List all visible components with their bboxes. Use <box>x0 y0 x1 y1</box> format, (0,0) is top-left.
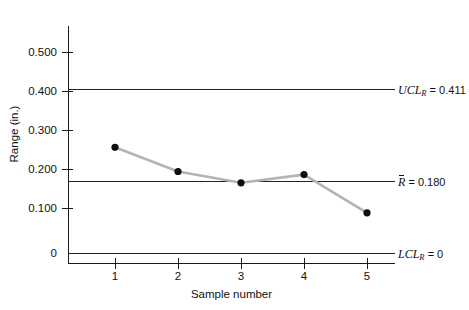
data-point-sample-3 <box>237 179 244 186</box>
data-point-sample-4 <box>300 171 307 178</box>
series-points <box>111 144 370 217</box>
range-control-chart: Range (in.) 0.500 0.400 0.300 0.200 0.10… <box>0 0 469 310</box>
data-series-layer <box>0 0 469 310</box>
data-point-sample-1 <box>111 144 118 151</box>
data-point-sample-5 <box>363 209 370 216</box>
data-point-sample-2 <box>174 168 181 175</box>
